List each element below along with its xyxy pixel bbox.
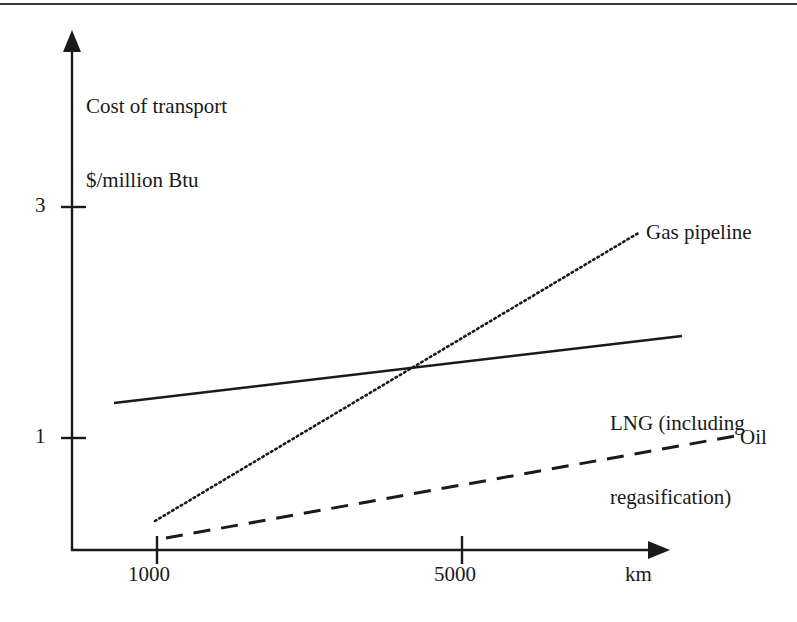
y-axis-arrow-icon xyxy=(63,30,81,52)
series-label-lng-line2: regasification) xyxy=(610,485,745,510)
series-label-lng-line1: LNG (including xyxy=(610,411,745,436)
chart-page: Cost of transport $/million Btu 3 1 1000… xyxy=(0,0,797,622)
series-label-gas-pipeline: Gas pipeline xyxy=(646,220,752,245)
x-tick-label-1000: 1000 xyxy=(128,562,170,587)
y-axis-title: Cost of transport $/million Btu xyxy=(86,44,227,242)
y-tick-label-3: 3 xyxy=(35,193,46,218)
y-tick-label-1: 1 xyxy=(35,424,46,449)
series-line-gas-pipeline xyxy=(155,232,640,521)
y-axis-title-line1: Cost of transport xyxy=(86,94,227,119)
y-axis-title-line2: $/million Btu xyxy=(86,168,227,193)
series-label-oil: Oil xyxy=(740,425,767,450)
x-axis-unit-label: km xyxy=(625,562,652,587)
x-tick-label-5000: 5000 xyxy=(434,562,476,587)
series-line-lng xyxy=(114,336,682,403)
series-label-lng: LNG (including regasification) xyxy=(610,361,745,559)
